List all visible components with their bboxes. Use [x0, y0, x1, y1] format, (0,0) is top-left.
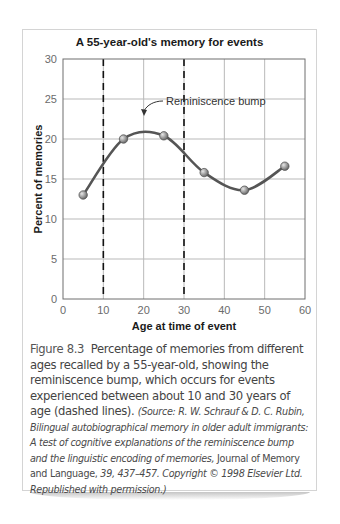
data-point-marker: [160, 132, 168, 140]
x-tick-label: 50: [259, 304, 271, 316]
data-point-marker: [79, 191, 87, 199]
figure-label: Figure 8.3: [30, 342, 84, 356]
y-tick-label: 20: [45, 133, 57, 145]
caption-source: (Source: R. W. Schrauf & D. C. Rubin, Bi…: [30, 406, 308, 495]
data-point-marker: [200, 168, 208, 176]
arrowhead-icon: [141, 109, 147, 116]
y-tick-label: 5: [51, 253, 57, 265]
y-tick-label: 30: [45, 53, 57, 65]
x-tick-label: 0: [60, 304, 66, 316]
figure-caption: Figure 8.3 Percentage of memories from d…: [30, 342, 312, 497]
annotation-label: Reminiscence bump: [166, 95, 266, 107]
x-tick-label: 40: [218, 304, 230, 316]
y-axis-title: Percent of memories: [32, 125, 44, 234]
y-tick-label: 0: [51, 293, 57, 305]
y-tick-label: 15: [45, 173, 57, 185]
x-axis-title: Age at time of event: [132, 320, 237, 332]
y-tick-label: 25: [45, 93, 57, 105]
y-axis-ticks: 051015202530: [45, 53, 57, 305]
x-tick-label: 20: [138, 304, 150, 316]
x-tick-label: 30: [178, 304, 190, 316]
data-point-marker: [119, 135, 127, 143]
y-tick-label: 10: [45, 213, 57, 225]
x-tick-label: 10: [97, 304, 109, 316]
data-point-marker: [281, 162, 289, 170]
source-prefix: (Source: R. W. Schrauf & D. C. Rubin,: [138, 406, 305, 417]
x-axis-ticks: 0102030405060: [60, 304, 311, 316]
annotation-arrow: [144, 101, 163, 111]
data-point-marker: [240, 186, 248, 194]
x-tick-label: 60: [299, 304, 311, 316]
line-chart: 051015202530 0102030405060 Reminiscence …: [0, 0, 340, 340]
